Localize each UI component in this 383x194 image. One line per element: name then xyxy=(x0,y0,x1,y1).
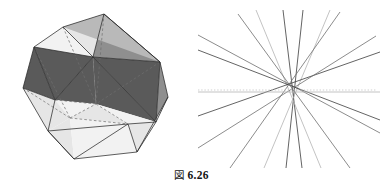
figure-container: .fdark{fill:#5a5a5a;} .fmid{fill:#8f8f8f… xyxy=(0,0,383,194)
icosahedron-panel: .fdark{fill:#5a5a5a;} .fmid{fill:#8f8f8f… xyxy=(0,0,190,170)
line-diagonal-6 xyxy=(238,14,350,168)
figure-caption: 図6.26 xyxy=(0,168,383,182)
caption-number: 6.26 xyxy=(187,169,208,181)
icosahedron-svg: .fdark{fill:#5a5a5a;} .fmid{fill:#8f8f8f… xyxy=(0,0,190,170)
pencil-of-lines xyxy=(198,10,380,168)
caption-mark-glyph: 図 xyxy=(174,169,184,181)
line-arrangement-panel: .ld{stroke:#3c3c3c;stroke-width:.8;} .lm… xyxy=(190,0,383,170)
line-arrangement-svg: .ld{stroke:#3c3c3c;stroke-width:.8;} .lm… xyxy=(190,0,383,170)
